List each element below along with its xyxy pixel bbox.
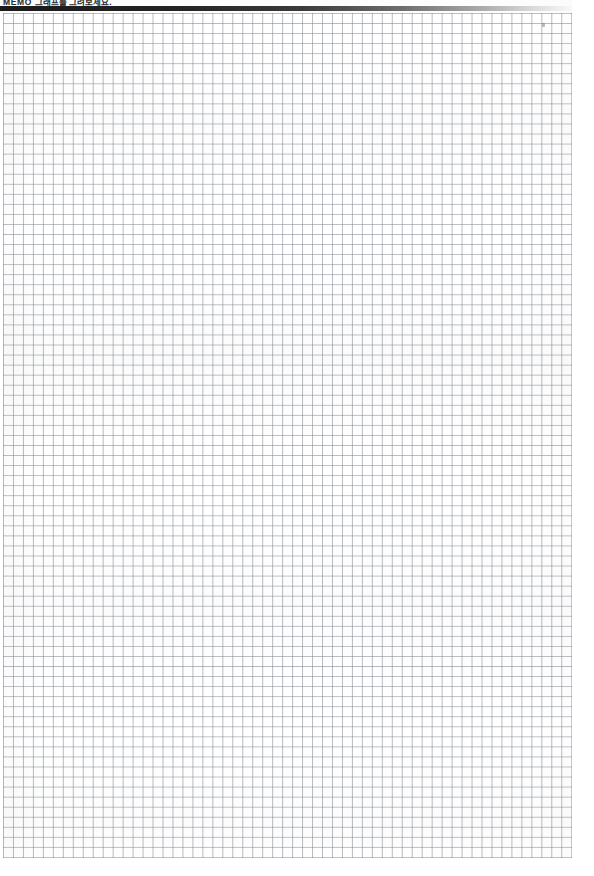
page-header: MEMO그래프를 그려보세요.: [0, 0, 594, 13]
right-margin: [572, 0, 594, 876]
header-divider-rule: [0, 6, 578, 11]
bottom-margin: [0, 858, 594, 876]
scan-speck-mark: [542, 23, 545, 27]
memo-graph-paper-page: MEMO그래프를 그려보세요.: [0, 0, 594, 876]
graph-paper-grid: [3, 13, 572, 858]
